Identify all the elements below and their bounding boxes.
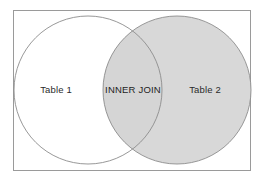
right-set-label: Table 2 [189,84,221,95]
intersection-label: INNER JOIN [105,84,161,95]
left-set-label: Table 1 [40,84,72,95]
venn-diagram-canvas: Table 1 INNER JOIN Table 2 [0,0,265,183]
